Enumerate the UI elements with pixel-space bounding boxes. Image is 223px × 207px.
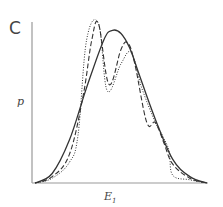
series-layer xyxy=(35,20,207,183)
plot-area xyxy=(0,0,223,207)
series-solid-line xyxy=(35,30,207,183)
